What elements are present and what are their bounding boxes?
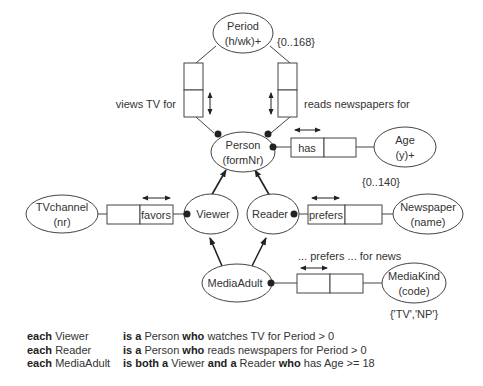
rule-keyword: who <box>182 330 204 342</box>
entity-mediakind-ref: (code) <box>398 285 429 297</box>
entity-mediaadult[interactable]: MediaAdult <box>202 264 275 302</box>
rule-keyword: who <box>182 344 204 356</box>
rule-text: has Age >= 18 <box>301 357 375 369</box>
rule-viewer: each Viewer is a Person who watches TV f… <box>27 330 375 344</box>
mediakind-value-constraint: {'TV','NP'} <box>390 308 438 320</box>
rule-keyword: each <box>27 357 52 369</box>
entity-newspaper-name: Newspaper <box>400 201 456 213</box>
rule-keyword: is both a <box>123 357 168 369</box>
fact-has-age[interactable]: has <box>291 130 356 157</box>
rule-text: Person <box>141 330 182 342</box>
entity-tvchannel[interactable]: TVchannel (nr) <box>26 195 98 233</box>
fact-favors[interactable]: favors <box>107 198 173 224</box>
entity-mediakind[interactable]: MediaKind (code) <box>382 263 446 303</box>
rule-text: watches TV for Period > 0 <box>204 330 334 342</box>
entity-age-name: Age <box>395 134 415 146</box>
rule-mediaadult: each MediaAdult is both a Viewer and a R… <box>27 357 375 371</box>
rule-subject: Reader <box>55 344 91 356</box>
fact-prefers-reading: prefers <box>309 209 344 221</box>
rule-text: Viewer <box>168 357 208 369</box>
fact-prefers-news[interactable] <box>297 268 363 293</box>
rule-keyword: is a <box>123 344 141 356</box>
rule-text: reads newspapers for Period > 0 <box>204 344 366 356</box>
entity-period-name: Period <box>227 20 259 32</box>
entity-viewer[interactable]: Viewer <box>184 194 239 234</box>
entity-person-name: Person <box>226 139 261 151</box>
entity-tvchannel-name: TVchannel <box>36 201 89 213</box>
entity-reader[interactable]: Reader <box>247 194 299 234</box>
entity-newspaper-ref: (name) <box>411 216 446 228</box>
rule-keyword: each <box>27 344 52 356</box>
rule-reader: each Reader is a Person who reads newspa… <box>27 344 375 358</box>
entity-period-ref: (h/wk)+ <box>225 35 261 47</box>
entity-tvchannel-ref: (nr) <box>53 216 70 228</box>
rule-text: Person <box>141 344 182 356</box>
entity-person-ref: (formNr) <box>223 154 264 166</box>
entity-newspaper[interactable]: Newspaper (name) <box>393 194 463 234</box>
rule-subject: Viewer <box>55 330 88 342</box>
rule-keyword: and a <box>208 357 237 369</box>
fact-has-age-reading: has <box>298 142 316 154</box>
fact-reads-news-reading: reads newspapers for <box>304 98 410 110</box>
rule-subject: MediaAdult <box>55 357 110 369</box>
entity-reader-name: Reader <box>252 208 288 220</box>
fact-favors-reading: favors <box>141 209 171 221</box>
entity-mediakind-name: MediaKind <box>388 270 440 282</box>
fact-views-tv-reading: views TV for <box>116 98 177 110</box>
fact-prefers-news-reading: ... prefers ... for news <box>298 250 402 262</box>
fact-reads-news[interactable]: reads newspapers for <box>271 63 410 117</box>
period-value-constraint: {0..168} <box>277 36 315 48</box>
fact-views-tv[interactable]: views TV for <box>116 63 210 117</box>
entity-period[interactable]: Period (h/wk)+ <box>213 13 273 53</box>
rule-keyword: each <box>27 330 52 342</box>
entity-viewer-name: Viewer <box>196 208 230 220</box>
entity-person[interactable]: Person (formNr) <box>211 131 277 173</box>
entity-age-ref: (y)+ <box>395 149 414 161</box>
fact-prefers[interactable]: prefers <box>308 198 382 224</box>
entity-mediaadult-name: MediaAdult <box>207 277 262 289</box>
rule-text: Reader <box>237 357 279 369</box>
rule-keyword: who <box>279 357 301 369</box>
age-value-constraint: {0..140} <box>362 176 400 188</box>
entity-age[interactable]: Age (y)+ <box>374 127 436 167</box>
subtype-definitions: each Viewer is a Person who watches TV f… <box>27 330 375 371</box>
rule-keyword: is a <box>123 330 141 342</box>
